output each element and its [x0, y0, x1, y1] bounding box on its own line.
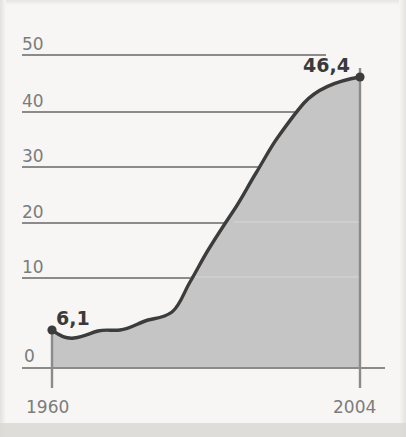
y-tick-label-40: 40	[22, 91, 44, 111]
y-tick-label-0: 0	[24, 346, 35, 366]
y-tick-label-50: 50	[22, 34, 44, 54]
area-chart-svg: 50 40 30 20 10 0 1960 2004 6,1 46,4	[0, 0, 406, 437]
start-value-label: 6,1	[56, 307, 90, 329]
end-point-marker	[355, 72, 364, 81]
chart-container: 50 40 30 20 10 0 1960 2004 6,1 46,4	[0, 0, 406, 437]
x-tick-label-1960: 1960	[26, 397, 69, 417]
end-value-label: 46,4	[303, 54, 350, 76]
y-tick-label-20: 20	[22, 202, 44, 222]
y-tick-label-30: 30	[22, 146, 44, 166]
x-tick-label-2004: 2004	[333, 397, 376, 417]
y-tick-label-10: 10	[22, 257, 44, 277]
